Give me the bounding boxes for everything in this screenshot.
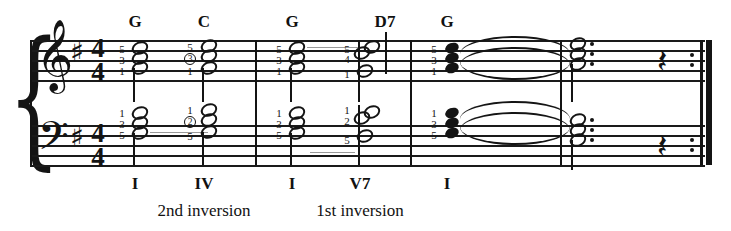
tie-bass-lower: [460, 127, 570, 145]
repeat-dot-bass-upper: [690, 138, 694, 142]
repeat-dot-treble-lower: [690, 63, 694, 67]
stem-bass-m2d: [358, 105, 360, 165]
barline-measure-2-end: [410, 40, 412, 165]
aug-dot-treble-2: [590, 52, 594, 56]
time-signature-treble-denominator: 4: [88, 60, 108, 86]
chord-symbol-3: G: [285, 12, 298, 32]
roman-numeral-3: I: [289, 174, 296, 194]
fingering-bass-m2-d7-bot: 5: [342, 135, 353, 146]
final-barline-heavy: [706, 40, 712, 165]
time-signature-bass-denominator: 4: [88, 145, 108, 171]
fingering-treble-m1-c-mid: 3: [184, 53, 196, 65]
aug-dot-bass-2: [590, 128, 594, 132]
stem-treble-m1: [133, 68, 135, 102]
stem-bass-m1c: [202, 132, 204, 165]
fingering-bass-m1-c-top: 1: [185, 105, 196, 116]
fingering-treble-m3-g-bot: 1: [429, 66, 440, 77]
fingering-bass-m1-g-bot: 5: [117, 130, 128, 141]
key-signature-sharp-treble: ♯: [70, 38, 84, 67]
stem-bass-m4: [571, 140, 573, 170]
chord-symbol-5: G: [440, 12, 453, 32]
stem-treble-m2d: [358, 40, 360, 102]
key-signature-sharp-bass: ♯: [70, 123, 84, 152]
stem-bass-m1: [133, 133, 135, 165]
fingering-treble-m2-d7-bot: 1: [342, 69, 353, 80]
fingering-bass-m3-g-bot: 5: [429, 130, 440, 141]
aug-dot-bass-1: [590, 118, 594, 122]
stem-treble-m4: [571, 64, 573, 102]
bass-staff-line-1: [30, 165, 705, 167]
inversion-label-1: 2nd inversion: [157, 201, 250, 221]
fingering-treble-m1-c-top: 5: [185, 42, 196, 53]
tie-treble-lower: [460, 62, 570, 80]
notehead-treble-m3-3: [444, 61, 461, 76]
roman-numeral-5: I: [444, 174, 451, 194]
chord-symbol-4: D7: [375, 12, 396, 32]
fingering-bass-m2-g-bot: 5: [274, 130, 285, 141]
voice-leading-line-3: [310, 152, 355, 153]
aug-dot-treble-1: [590, 42, 594, 46]
final-barline-thin: [700, 40, 703, 165]
fingering-bass-m1-c-mid: 2: [184, 116, 196, 128]
notehead-bass-m3-3: [444, 126, 461, 141]
aug-dot-treble-3: [590, 62, 594, 66]
repeat-dot-bass-lower: [690, 148, 694, 152]
bass-staff-line-3: [30, 145, 705, 147]
quarter-rest-treble: 𝄽: [657, 43, 667, 77]
roman-numeral-1: I: [132, 174, 139, 194]
chord-symbol-1: G: [128, 12, 141, 32]
fingering-treble-m1-g-bot: 1: [117, 66, 128, 77]
system-start-barline: [30, 40, 32, 165]
roman-numeral-4: V7: [350, 174, 371, 194]
fingering-treble-m2-d7-mid: 4: [342, 54, 353, 65]
stem-treble-m1c: [202, 68, 204, 102]
treble-clef-icon: 𝄞: [36, 23, 73, 86]
bass-clef-icon: 𝄢: [38, 116, 69, 164]
stem-bass-m2: [290, 133, 292, 165]
fingering-treble-m1-c-bot: 1: [185, 66, 196, 77]
chord-symbol-4-leader: [385, 32, 387, 74]
fingering-bass-m2-d7-mid: 2: [342, 116, 353, 127]
treble-staff-line-1: [30, 80, 705, 82]
barline-measure-1-end: [255, 40, 257, 165]
fingering-treble-m2-g-bot: 1: [274, 66, 285, 77]
stem-treble-m2: [290, 68, 292, 102]
fingering-bass-m1-c-bot: 5: [185, 131, 196, 142]
sheet-music-system: { 𝄞 𝄢 ♯ ♯ 4 4 4 4 G C G D7 G I IV I V7 I…: [0, 0, 731, 231]
voice-leading-line-1: [150, 132, 208, 133]
inversion-label-2: 1st inversion: [316, 201, 403, 221]
quarter-rest-bass: 𝄽: [657, 128, 667, 162]
bass-staff-line-2: [30, 155, 705, 157]
aug-dot-bass-3: [590, 138, 594, 142]
chord-symbol-2: C: [198, 12, 210, 32]
roman-numeral-2: IV: [195, 174, 214, 194]
repeat-dot-treble-upper: [690, 53, 694, 57]
